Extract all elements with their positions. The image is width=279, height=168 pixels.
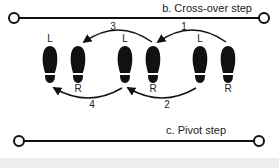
- foot-5-left: [193, 46, 208, 83]
- step-1-arrow-icon: [158, 30, 226, 42]
- foot-label-right: R: [74, 83, 81, 94]
- foot-2-right: [71, 46, 86, 83]
- foot-label-left: L: [47, 33, 53, 44]
- step-2-number: 2: [164, 99, 170, 110]
- step-1-number: 1: [181, 21, 187, 32]
- step-4-number: 4: [89, 99, 95, 110]
- foot-6-right: [221, 46, 236, 83]
- foot-label-right: R: [149, 83, 156, 94]
- step-3-arrow-icon: [84, 30, 152, 42]
- foot-4-right: [146, 46, 161, 83]
- bottom-band: [0, 158, 279, 168]
- cross-over-pivot-diagram: b. Cross-over step L L L R R R 1 3 2 4 c…: [0, 0, 279, 168]
- cross-over-step-label: b. Cross-over step: [162, 2, 252, 14]
- pivot-step-line: [14, 136, 264, 146]
- step-4-arrow-icon: [54, 88, 122, 98]
- foot-label-right: R: [224, 83, 231, 94]
- step-3-number: 3: [110, 21, 116, 32]
- foot-label-left: L: [122, 33, 128, 44]
- step-2-arrow-icon: [128, 88, 196, 98]
- foot-1-left: [43, 46, 58, 83]
- foot-label-left: L: [197, 33, 203, 44]
- foot-3-left: [118, 46, 133, 83]
- pivot-step-label: c. Pivot step: [166, 124, 226, 136]
- cross-over-step-line: [9, 13, 269, 23]
